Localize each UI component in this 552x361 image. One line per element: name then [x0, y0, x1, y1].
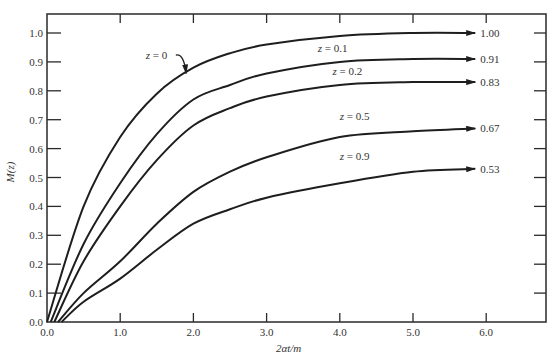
curve-label: z = 0.2 — [331, 65, 362, 77]
x-axis-label: 2αt/m — [276, 342, 301, 354]
y-tick-label: 0.0 — [29, 316, 43, 328]
curve-label: z = 0.5 — [339, 110, 370, 122]
x-tick-label: 1.0 — [113, 326, 127, 338]
y-tick-label: 0.1 — [29, 287, 43, 299]
pointer-arrow-icon — [176, 55, 186, 74]
y-axis-label: M(z) — [4, 161, 17, 183]
x-axis-ticks: 0.01.02.03.04.05.06.0 — [40, 14, 493, 338]
y-tick-label: 0.8 — [29, 85, 43, 97]
y-tick-label: 0.9 — [29, 56, 43, 68]
y-tick-label: 0.7 — [29, 114, 43, 126]
curve-label: z = 0.9 — [339, 150, 370, 162]
x-tick-label: 4.0 — [333, 326, 347, 338]
curve-label: z = 0.1 — [317, 42, 348, 54]
y-tick-label: 0.6 — [29, 143, 43, 155]
curve-z-0-9 — [62, 169, 476, 322]
asymptote-label: 0.53 — [480, 163, 500, 175]
asymptote-label: 0.67 — [480, 122, 500, 134]
curve-z-0 — [47, 33, 475, 322]
curves: 1.000.910.830.670.53 — [47, 27, 500, 322]
y-tick-label: 0.3 — [29, 229, 43, 241]
curve-z-0-5 — [58, 128, 475, 322]
asymptote-label: 0.83 — [480, 76, 500, 88]
chart: 0.01.02.03.04.05.06.0 0.00.10.20.30.40.5… — [0, 0, 552, 361]
x-tick-label: 3.0 — [260, 326, 274, 338]
y-tick-label: 0.4 — [29, 200, 43, 212]
x-tick-label: 2.0 — [187, 326, 201, 338]
asymptote-label: 1.00 — [480, 27, 500, 39]
y-axis-ticks: 0.00.10.20.30.40.50.60.70.80.91.0 — [29, 27, 546, 328]
x-tick-label: 6.0 — [479, 326, 493, 338]
curve-z-0-2 — [54, 82, 475, 322]
x-tick-label: 5.0 — [406, 326, 420, 338]
y-tick-label: 0.2 — [29, 258, 43, 270]
curve-labels: z = 0z = 0.1z = 0.2z = 0.5z = 0.9 — [145, 42, 370, 162]
asymptote-label: 0.91 — [480, 53, 499, 65]
y-tick-label: 0.5 — [29, 172, 43, 184]
curve-label: z = 0 — [145, 49, 168, 61]
y-tick-label: 1.0 — [29, 27, 43, 39]
